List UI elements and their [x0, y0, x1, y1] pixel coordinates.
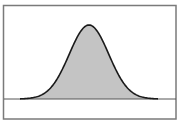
bell-curve-chart: [0, 0, 180, 124]
